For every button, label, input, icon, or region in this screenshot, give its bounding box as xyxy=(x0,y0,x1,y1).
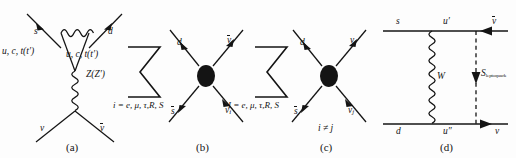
panel-d-w-boson-line xyxy=(429,31,435,123)
panel-c-nubar-label: νj xyxy=(348,106,354,116)
panel-a-caption: (a) xyxy=(66,141,78,153)
panel-d-antineutrino-glyph: ν xyxy=(492,17,496,27)
panel-b-sbar-glyph: s xyxy=(171,107,175,117)
panel-d-leptoquark-label: Sleptoquark xyxy=(481,69,506,79)
panel-d-bottom-mid-label: u″ xyxy=(443,127,452,137)
panel-d-w-boson-label: W xyxy=(437,72,445,82)
panel-d-bottom-right-label: ν xyxy=(495,127,499,137)
panel-c-nu-subscript: i xyxy=(354,38,356,46)
panel-c-sbar-glyph: s xyxy=(294,107,298,117)
panel-d-caption: (d) xyxy=(440,141,453,153)
panel-a-loop-right-label: u, c, t(t′) xyxy=(66,50,98,60)
panel-a-s-quark-line xyxy=(27,14,61,48)
panel-a-antineutrino-line xyxy=(75,111,114,142)
panel-d-leptoquark-subscript: leptoquark xyxy=(486,73,506,78)
panel-c-sbar-label: s xyxy=(294,107,298,117)
panel-a-loop-left-label: u, c, t(t′) xyxy=(2,47,34,57)
panel-c-caption: (c) xyxy=(320,141,332,153)
panel-b-vertex-blob xyxy=(197,65,215,87)
panel-d-top-left-label: s xyxy=(396,17,400,27)
panel-b-sbar-arrow xyxy=(178,105,186,113)
panel-a-d-quark-label: d xyxy=(108,27,113,37)
panel-d-bottom-left-label: d xyxy=(396,127,401,137)
panel-c-nu-label: νi xyxy=(350,36,356,46)
panel-b-sum-subscript: i = e, μ, τ,R, S xyxy=(113,100,164,110)
panel-a-antineutrino-label: ν xyxy=(100,124,104,134)
panel-c-sbar-line xyxy=(292,86,322,122)
panel-b-nu-subscript: i xyxy=(231,38,233,46)
panel-d-bottom-arrow xyxy=(480,119,492,128)
panel-c-sum-subscript: I = e, μ, τ,R, S xyxy=(228,100,279,110)
panel-a-d-quark-line xyxy=(89,14,122,48)
panel-d-top-mid-label: u′ xyxy=(443,17,450,27)
feynman-diagram-figure: s d u, c, t(t′) u, c, t(t′) Z(Z′) ν ν (a… xyxy=(0,0,516,158)
panel-c-d-label: d xyxy=(300,38,305,48)
panel-c-nubar-glyph: ν xyxy=(348,106,352,116)
panel-d-top-arrow xyxy=(480,26,492,35)
panel-a-z-propagator-label: Z(Z′) xyxy=(86,70,105,80)
panel-c-sbar-arrow xyxy=(301,105,309,113)
panel-b-caption: (b) xyxy=(196,141,209,153)
panel-a-z-propagator-line xyxy=(72,71,79,111)
panel-b-d-label: d xyxy=(177,38,182,48)
panel-d-top-right-label: ν xyxy=(492,17,496,27)
panel-c-nubar-line xyxy=(336,86,366,122)
panel-c-index-condition: i ≠ j xyxy=(318,124,333,134)
panel-b-nu-glyph: ν xyxy=(227,36,231,46)
panel-c-vertex-blob xyxy=(320,65,338,87)
panel-d-leptoquark-arrow xyxy=(472,72,481,84)
panel-b-nu-label: νi xyxy=(227,36,233,46)
panel-a-neutrino-label: ν xyxy=(40,124,44,134)
panel-a-s-quark-label: s xyxy=(34,27,38,37)
panel-c-sum-symbol-glyph xyxy=(255,47,287,97)
panel-b-sum-symbol-glyph xyxy=(128,47,160,97)
panel-c-nubar-subscript: j xyxy=(352,108,354,116)
panel-a-antineutrino-glyph: ν xyxy=(100,124,104,134)
panel-b-sbar-label: s xyxy=(171,107,175,117)
panel-b-sbar-line xyxy=(169,86,199,122)
